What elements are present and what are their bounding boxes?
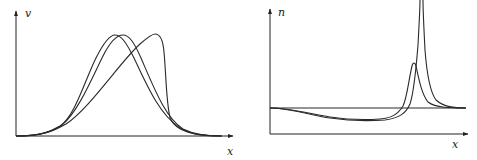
y-axis-label: n xyxy=(278,6,285,19)
finite-peak-curve xyxy=(270,63,466,120)
x-axis-label: x xyxy=(452,138,459,151)
singular-spike-curve-left xyxy=(270,0,420,121)
density-plot-canvas: n x xyxy=(240,0,477,160)
x-axis-label: x xyxy=(227,145,234,158)
velocity-plot: v x xyxy=(0,0,240,160)
singular-spike-curve-right xyxy=(423,0,466,108)
pulse-curve-1 xyxy=(16,35,220,136)
density-plot: n x xyxy=(240,0,477,160)
y-axis-label: v xyxy=(25,7,32,20)
pulse-curve-2 xyxy=(16,35,222,136)
pulse-curve-3 xyxy=(16,34,222,136)
velocity-plot-canvas: v x xyxy=(0,0,240,160)
